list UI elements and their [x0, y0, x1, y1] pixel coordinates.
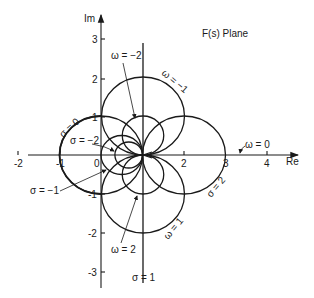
x-tick-neg2: -2	[14, 158, 23, 169]
label-omega-0: ω = 0	[245, 139, 270, 150]
label-sigma-2: σ = 2	[204, 174, 228, 199]
f-plane-diagram: F(s) Plane Re Im -2 -1 0 2 3 4 3 2 1 -1 …	[0, 0, 314, 298]
y-tick-neg3: -3	[88, 267, 97, 278]
x-tick-4: 4	[264, 158, 270, 169]
x-tick-2: 2	[181, 158, 187, 169]
real-axis-label: Re	[286, 156, 299, 167]
y-tick-neg2: -2	[88, 228, 97, 239]
label-omega-neg2: ω = −2	[111, 50, 142, 61]
label-omega-1: ω = 1	[161, 215, 186, 241]
leader-omega-2	[121, 196, 137, 243]
y-tick-2: 2	[92, 74, 98, 85]
label-sigma-neg1: σ = −1	[30, 185, 59, 196]
plane-title: F(s) Plane	[202, 28, 249, 39]
leader-omega-neg2	[123, 63, 135, 118]
leader-sigma-neg1	[60, 170, 106, 191]
y-tick-3: 3	[92, 34, 98, 45]
x-tick-0: 0	[94, 158, 100, 169]
y-ticks: 3 2 1 -1 -2 -3	[88, 34, 105, 278]
label-sigma-1: σ = 1	[132, 272, 156, 283]
imag-axis-label: Im	[84, 13, 95, 24]
label-omega-2: ω = 2	[111, 244, 136, 255]
